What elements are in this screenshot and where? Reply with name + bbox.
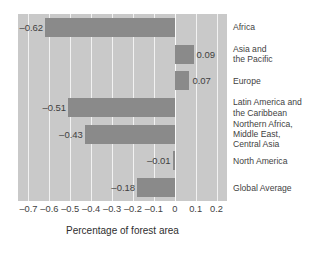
forest-area-bar-chart: –0.620.090.07–0.51–0.43–0.01–0.18 Africa…: [0, 0, 323, 260]
x-tick-label: –0.6: [40, 203, 58, 215]
x-tick-label: –0.1: [145, 203, 163, 215]
bar: [175, 71, 190, 90]
x-tick-label: 0: [172, 203, 177, 215]
x-tick-label: –0.4: [82, 203, 100, 215]
bar: [137, 178, 175, 197]
category-label: North America: [233, 156, 287, 166]
plot-area: –0.620.090.07–0.51–0.43–0.01–0.18: [18, 14, 227, 201]
category-label: Latin America and the Caribbean: [233, 97, 302, 117]
bar: [173, 151, 175, 170]
bar-value-label: –0.62: [19, 22, 43, 33]
bar-value-label: 0.09: [197, 49, 216, 60]
category-label: Asia and the Pacific: [233, 44, 273, 64]
gridline: [217, 14, 218, 201]
category-label: Europe: [233, 76, 261, 86]
bar-value-label: 0.07: [192, 75, 211, 86]
x-axis-title: Percentage of forest area: [0, 224, 245, 237]
x-tick-label: 0.1: [189, 203, 202, 215]
bar: [68, 98, 175, 117]
bar-value-label: –0.01: [147, 155, 171, 166]
category-label: Northern Africa, Middle East, Central As…: [233, 119, 293, 150]
bar: [85, 125, 175, 144]
bar: [175, 45, 194, 64]
x-tick-label: –0.2: [124, 203, 142, 215]
bar-value-label: –0.43: [59, 129, 83, 140]
zero-gridline: [175, 14, 176, 201]
bar-value-label: –0.51: [42, 102, 66, 113]
bar-value-label: –0.18: [111, 182, 135, 193]
x-tick-label: –0.7: [19, 203, 37, 215]
category-label: Global Average: [233, 183, 292, 193]
x-tick-label: –0.3: [103, 203, 121, 215]
category-label: Africa: [233, 22, 255, 32]
category-label-list: AfricaAsia and the PacificEuropeLatin Am…: [233, 14, 323, 201]
gridline: [28, 14, 29, 201]
x-tick-label: –0.5: [61, 203, 79, 215]
gridline: [196, 14, 197, 201]
bar: [45, 18, 175, 37]
x-tick-label: 0.2: [210, 203, 223, 215]
x-axis-tick-labels: –0.7–0.6–0.5–0.4–0.3–0.2–0.100.10.2: [18, 203, 227, 217]
